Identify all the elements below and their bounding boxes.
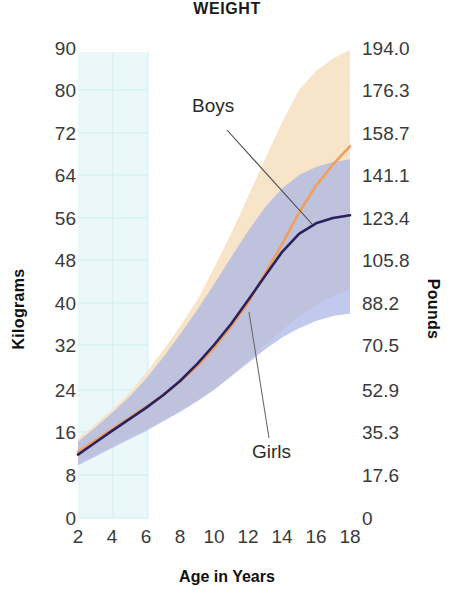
y-tick-left: 48	[24, 251, 76, 270]
y-tick-right: 52.9	[362, 381, 442, 400]
y-tick-left: 24	[24, 381, 76, 400]
annotation-girls: Girls	[252, 442, 291, 461]
y-tick-left: 72	[24, 124, 76, 143]
y-tick-right: 176.3	[362, 81, 442, 100]
y-tick-right: 141.1	[362, 166, 442, 185]
x-tick: 12	[233, 527, 263, 546]
y-tick-left: 90	[24, 39, 76, 58]
x-tick: 10	[199, 527, 229, 546]
y-tick-right: 35.3	[362, 423, 442, 442]
y-tick-left: 16	[24, 423, 76, 442]
y-axis-right-label: Pounds	[424, 264, 442, 354]
annotation-boys: Boys	[192, 96, 234, 115]
x-tick: 8	[165, 527, 195, 546]
x-tick: 6	[131, 527, 161, 546]
y-tick-left: 32	[24, 336, 76, 355]
y-tick-right: 17.6	[362, 466, 442, 485]
x-tick: 14	[267, 527, 297, 546]
y-axis-left-label: Kilograms	[10, 264, 28, 354]
x-tick: 4	[97, 527, 127, 546]
x-axis-label: Age in Years	[0, 568, 454, 586]
y-tick-left: 8	[24, 466, 76, 485]
y-tick-left: 64	[24, 166, 76, 185]
y-tick-left: 56	[24, 209, 76, 228]
y-tick-right: 194.0	[362, 39, 442, 58]
y-tick-right: 158.7	[362, 124, 442, 143]
x-tick: 16	[301, 527, 331, 546]
weight-growth-chart: WEIGHT Boys Girls 9080726456484032241680	[0, 0, 454, 603]
y-tick-right: 123.4	[362, 209, 442, 228]
y-tick-left: 40	[24, 294, 76, 313]
y-tick-right: 0	[362, 509, 442, 528]
y-tick-left: 0	[24, 509, 76, 528]
x-tick: 2	[63, 527, 93, 546]
x-tick: 18	[335, 527, 365, 546]
y-tick-left: 80	[24, 81, 76, 100]
